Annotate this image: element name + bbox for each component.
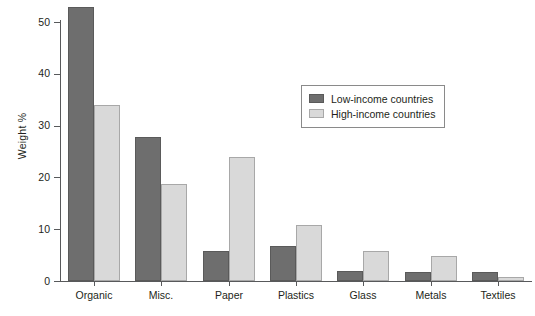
bar-misc-high-income: [161, 184, 187, 281]
bar-metals-low-income: [405, 272, 431, 281]
chart-legend: Low-income countriesHigh-income countrie…: [301, 85, 445, 128]
bar-glass-high-income: [363, 251, 389, 281]
plot-area: [0, 0, 535, 316]
bar-plastics-high-income: [296, 225, 322, 281]
bar-organic-low-income: [68, 7, 94, 281]
legend-label: Low-income countries: [331, 93, 433, 105]
legend-item-low-income: Low-income countries: [309, 91, 435, 106]
bar-metals-high-income: [431, 256, 457, 281]
bar-organic-high-income: [94, 105, 120, 281]
legend-swatch-icon: [309, 109, 324, 118]
bar-textiles-low-income: [472, 272, 498, 281]
bar-misc-low-income: [135, 137, 161, 281]
bar-chart: Weight % 01020304050 OrganicMisc.PaperPl…: [0, 0, 535, 316]
bar-paper-high-income: [229, 157, 255, 281]
legend-label: High-income countries: [331, 108, 435, 120]
legend-swatch-icon: [309, 94, 324, 103]
bar-glass-low-income: [337, 271, 363, 281]
bar-paper-low-income: [203, 251, 229, 281]
bar-plastics-low-income: [270, 246, 296, 281]
legend-item-high-income: High-income countries: [309, 106, 435, 121]
bar-textiles-high-income: [498, 277, 524, 281]
